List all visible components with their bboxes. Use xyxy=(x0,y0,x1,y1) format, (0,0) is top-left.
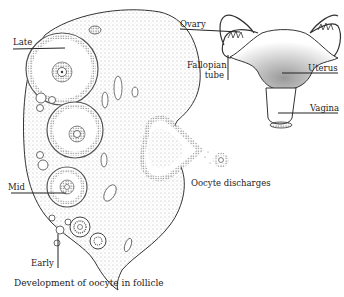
label-early-follicle: Early xyxy=(31,259,54,268)
label-uterus: Uterus xyxy=(308,64,338,73)
ruptured-follicle xyxy=(143,118,200,179)
diagram-caption: Development of oocyte in follicle xyxy=(14,279,164,288)
diagram-canvas xyxy=(0,0,344,297)
released-oocyte xyxy=(204,152,227,167)
label-ovary: Ovary xyxy=(180,20,206,29)
label-fallopian-tube-line1: Fallopian xyxy=(187,61,224,70)
mid-follicle xyxy=(47,167,87,207)
label-fallopian-tube-line2: tube xyxy=(187,71,224,80)
label-vagina: Vagina xyxy=(310,104,339,113)
late-follicle xyxy=(26,33,98,105)
label-late-follicle: Late xyxy=(13,38,32,47)
label-mid-follicle: Mid xyxy=(8,183,25,192)
label-fallopian-tube: Fallopian tube xyxy=(187,61,224,79)
developing-follicle xyxy=(47,102,103,158)
label-oocyte-discharges: Oocyte discharges xyxy=(191,179,271,188)
